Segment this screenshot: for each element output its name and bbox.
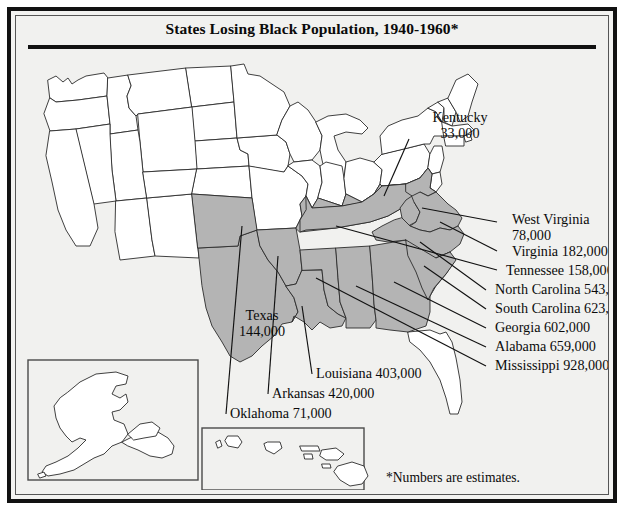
label-tennessee: Tennessee 158,000 [506,263,609,279]
label-louisiana: Louisiana 403,000 [316,366,422,382]
label-north-carolina: North Carolina 543,000 [495,282,609,298]
title-divider [28,45,596,49]
label-mississippi: Mississippi 928,000 [495,358,609,374]
hawaii-kahoolawe [322,464,331,468]
figure-container: States Losing Black Population, 1940-196… [0,0,624,510]
label-south-carolina: South Carolina 623,000 [495,301,609,317]
label-alabama: Alabama 659,000 [495,339,596,355]
label-georgia: Georgia 602,000 [495,320,590,336]
state-south-dakota [192,102,237,141]
hawaii-molokai [300,446,320,451]
hawaii-lanai [304,454,313,459]
state-new-mexico [147,194,199,258]
figure-inner-border: States Losing Black Population, 1940-196… [15,15,609,495]
figure-outer-border: States Losing Black Population, 1940-196… [7,7,617,503]
hawaii-inset-frame [202,428,364,490]
map-stage: Kentucky 33,000 West Virginia 78,000 Vir… [16,50,608,494]
alaska-inset [28,360,198,480]
state-new-jersey [428,146,444,174]
label-virginia: Virginia 182,000 [512,244,608,260]
page-title: States Losing Black Population, 1940-196… [16,20,608,38]
label-west-virginia: West Virginia 78,000 [512,212,589,243]
state-colorado [143,169,197,198]
label-oklahoma: Oklahoma 71,000 [230,406,332,422]
label-kentucky: Kentucky 33,000 [418,110,502,141]
label-texas: Texas 144,000 [224,308,300,339]
state-wyoming [138,107,197,172]
state-missouri [249,166,308,230]
hawaii-inset [202,428,368,490]
state-kansas [192,166,252,198]
label-arkansas: Arkansas 420,000 [272,386,374,402]
state-north-dakota [186,66,234,107]
footnote: *Numbers are estimates. [386,470,520,486]
